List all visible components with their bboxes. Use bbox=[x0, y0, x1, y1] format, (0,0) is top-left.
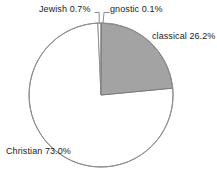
pie-label-jewish: Jewish 0.7% bbox=[39, 4, 91, 15]
leader-line-gnostic bbox=[103, 13, 110, 24]
pie-label-christian: Christian 73.0% bbox=[6, 146, 71, 157]
pie-label-classical: classical 26.2% bbox=[152, 31, 215, 42]
pie-chart: Jewish 0.7% gnostic 0.1% classical 26.2%… bbox=[0, 0, 217, 171]
leader-line-jewish bbox=[95, 13, 100, 24]
pie-label-gnostic: gnostic 0.1% bbox=[110, 4, 163, 15]
